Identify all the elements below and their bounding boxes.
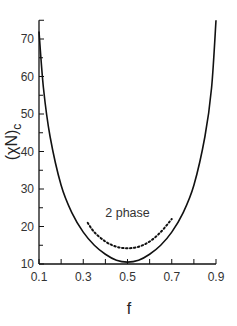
- x-tick-label: 0.1: [31, 270, 48, 284]
- solid-series-line: [39, 20, 216, 262]
- annotation-2-phase: 2 phase: [105, 206, 150, 220]
- x-tick-label: 0.5: [119, 270, 136, 284]
- y-tick-label: 50: [21, 107, 35, 121]
- y-tick-label: 20: [21, 220, 35, 234]
- y-axis-label-main: (χN): [3, 130, 20, 161]
- dotted-series-line: [88, 219, 172, 248]
- plot-series: [39, 20, 216, 262]
- y-tick-label: 40: [21, 145, 35, 159]
- y-tick-label: 30: [21, 182, 35, 196]
- y-tick-label: 60: [21, 70, 35, 84]
- chart: 102030405060700.10.30.50.70.9 2 phase f …: [0, 0, 237, 326]
- y-axis-label-subscript: c: [10, 124, 24, 130]
- x-tick-label: 0.7: [163, 270, 180, 284]
- axes: 102030405060700.10.30.50.70.9: [21, 20, 225, 284]
- x-tick-label: 0.3: [75, 270, 92, 284]
- annotations: 2 phase: [105, 206, 150, 220]
- x-tick-label: 0.9: [208, 270, 225, 284]
- x-axis-label: f: [127, 300, 132, 317]
- y-tick-label: 70: [21, 32, 35, 46]
- y-tick-label: 10: [21, 257, 35, 271]
